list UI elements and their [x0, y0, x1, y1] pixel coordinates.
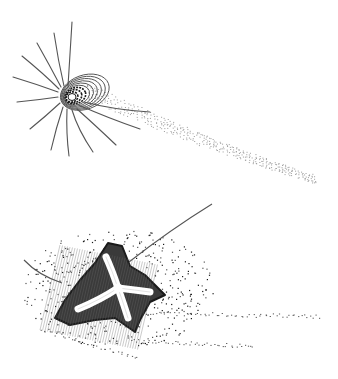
figure-canvas: [0, 0, 338, 379]
diagram-svg: [0, 0, 338, 379]
top-spoke-lines: [13, 22, 150, 156]
top-vortex-panel: [13, 22, 316, 183]
top-dotted-trail: [87, 85, 316, 183]
bottom-star-panel: [24, 204, 320, 359]
